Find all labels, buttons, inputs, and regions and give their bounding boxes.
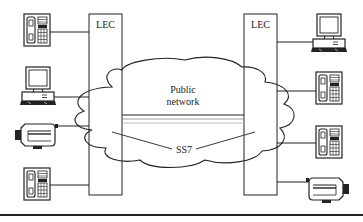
left-fax-machine-icon (15, 124, 58, 149)
right-telephone-1-icon (316, 72, 342, 104)
right-fax-machine-icon (306, 178, 349, 203)
right-telephone-2-icon (316, 126, 342, 158)
ss7-label: SS7 (176, 144, 192, 155)
right-lec-label: LEC (251, 19, 270, 30)
left-telephone-2-icon (24, 168, 50, 200)
left-computer-icon (20, 67, 56, 105)
left-lec-label: LEC (96, 19, 115, 30)
ss7-network-diagram: LEC LEC Public network SS7 (0, 0, 363, 222)
network-label-line1: Public (170, 84, 196, 95)
right-computer-icon (311, 14, 347, 52)
network-label-line2: network (167, 96, 200, 107)
left-telephone-1-icon (24, 14, 50, 46)
